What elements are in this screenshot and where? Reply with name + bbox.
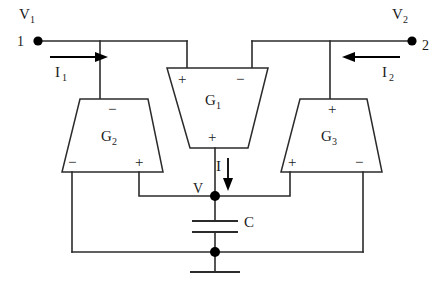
label-capacitor-c: C xyxy=(244,214,254,230)
label-g3-main: G xyxy=(321,128,332,144)
junction-dot-node-v xyxy=(210,191,220,201)
circuit-schematic: V 1 1 I 1 V 2 2 I 2 G 1 + − + xyxy=(0,0,445,301)
g2-terminal-top: − xyxy=(108,101,116,117)
i1-arrow-head xyxy=(95,52,108,62)
label-v2: V 2 xyxy=(392,6,408,25)
label-v1: V 1 xyxy=(19,6,35,25)
i2-arrow-head xyxy=(342,52,355,62)
label-v2-sub: 2 xyxy=(403,14,408,25)
label-i2-sub: 2 xyxy=(389,72,394,83)
g3-terminal-top: + xyxy=(328,101,336,117)
label-terminal-2: 2 xyxy=(422,38,429,53)
label-output-current-i: I xyxy=(216,158,221,174)
label-i2-main: I xyxy=(382,64,387,80)
junction-dot-ground xyxy=(210,247,220,257)
current-arrow-i2 xyxy=(342,52,400,62)
label-g2-sub: 2 xyxy=(112,136,117,147)
capacitor-c[interactable] xyxy=(192,196,238,252)
port2-terminal-dot xyxy=(407,36,416,45)
g1-terminal-bottom: + xyxy=(208,129,216,145)
circuit-diagram-canvas: V 1 1 I 1 V 2 2 I 2 G 1 + − + xyxy=(0,0,445,301)
label-v2-main: V xyxy=(392,6,403,22)
label-i2: I 2 xyxy=(382,64,394,83)
label-terminal-1: 1 xyxy=(17,34,24,49)
label-node-v: V xyxy=(193,181,203,196)
label-v1-sub: 1 xyxy=(30,14,35,25)
label-g1-sub: 1 xyxy=(216,100,221,111)
label-g3-sub: 3 xyxy=(332,136,337,147)
g3-terminal-bottom-right: − xyxy=(355,154,363,170)
g2-terminal-bottom-right: + xyxy=(135,154,143,170)
g3-leg-wires xyxy=(215,172,363,252)
i-arrow-head xyxy=(223,178,233,191)
label-i1-main: I xyxy=(55,64,60,80)
label-g1-main: G xyxy=(205,92,216,108)
label-g2-main: G xyxy=(101,128,112,144)
port1-terminal-dot xyxy=(33,36,42,45)
port2-top-wire-group xyxy=(252,36,417,99)
g2-terminal-bottom-left: − xyxy=(68,154,76,170)
label-i1-sub: 1 xyxy=(62,72,67,83)
g1-terminal-top-left: + xyxy=(178,71,186,87)
g3-terminal-bottom-left: + xyxy=(288,154,296,170)
label-i1: I 1 xyxy=(55,64,67,83)
g1-terminal-top-right: − xyxy=(236,71,244,87)
label-v1-main: V xyxy=(19,6,30,22)
wire-g2-plus-to-node-v xyxy=(139,172,215,196)
current-arrow-i-output xyxy=(223,158,233,191)
